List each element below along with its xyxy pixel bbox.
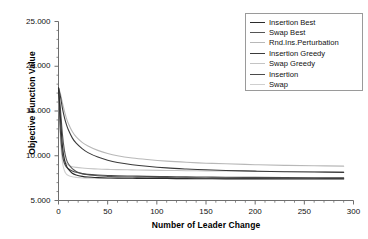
series-line bbox=[59, 88, 344, 166]
legend-item: Insertion Greedy bbox=[250, 48, 358, 58]
legend-item: Insertion Best bbox=[250, 17, 358, 27]
legend-label: Insertion bbox=[269, 70, 298, 79]
series-line bbox=[59, 88, 344, 173]
y-tick-label: 15.000 bbox=[11, 106, 51, 115]
legend-item: Swap bbox=[250, 79, 358, 89]
legend-label: Swap Greedy bbox=[269, 59, 315, 68]
x-tick-label: 250 bbox=[284, 207, 324, 216]
legend-label: Swap Best bbox=[269, 28, 305, 37]
legend-swatch-icon bbox=[250, 74, 265, 75]
series-line bbox=[59, 88, 344, 172]
chart-legend: Insertion BestSwap BestRnd.Ins.Perturbat… bbox=[245, 13, 363, 91]
x-tick-label: 50 bbox=[88, 207, 128, 216]
legend-item: Swap Greedy bbox=[250, 59, 358, 69]
chart-figure: Objective Function Value Number of Leade… bbox=[0, 0, 368, 239]
x-tick-label: 300 bbox=[334, 207, 368, 216]
legend-swatch-icon bbox=[250, 63, 265, 64]
legend-swatch-icon bbox=[250, 53, 265, 54]
x-tick-label: 0 bbox=[39, 207, 79, 216]
series-line bbox=[59, 88, 344, 178]
y-tick-label: 10.000 bbox=[11, 151, 51, 160]
x-tick-label: 100 bbox=[137, 207, 177, 216]
legend-swatch-icon bbox=[250, 32, 265, 33]
legend-swatch-icon bbox=[250, 42, 265, 43]
x-tick-label: 150 bbox=[186, 207, 226, 216]
legend-item: Insertion bbox=[250, 69, 358, 79]
series-line bbox=[59, 88, 344, 179]
x-tick-label: 200 bbox=[235, 207, 275, 216]
y-tick-label: 25.000 bbox=[11, 17, 51, 26]
y-tick-label: 5.000 bbox=[11, 196, 51, 205]
legend-label: Insertion Greedy bbox=[269, 49, 325, 58]
legend-label: Insertion Best bbox=[269, 18, 315, 27]
legend-label: Rnd.Ins.Perturbation bbox=[269, 38, 339, 47]
legend-item: Swap Best bbox=[250, 27, 358, 37]
legend-swatch-icon bbox=[250, 22, 265, 23]
legend-item: Rnd.Ins.Perturbation bbox=[250, 38, 358, 48]
legend-swatch-icon bbox=[250, 84, 265, 85]
legend-label: Swap bbox=[269, 80, 288, 89]
x-axis-title: Number of Leader Change bbox=[58, 220, 354, 230]
y-tick-label: 20.000 bbox=[11, 61, 51, 70]
